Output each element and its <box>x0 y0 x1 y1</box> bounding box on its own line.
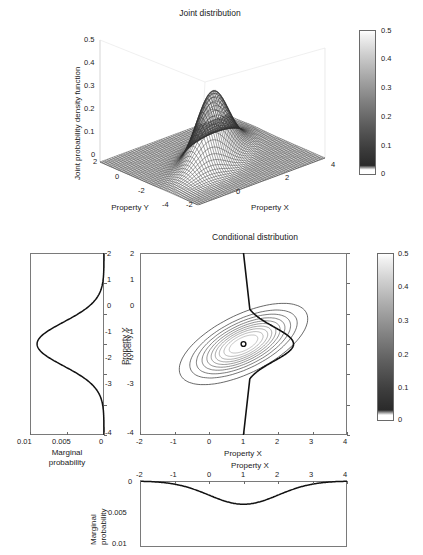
conditional-ytick-0: 2 <box>130 249 134 258</box>
marginal-x-xaxis-label: Property X <box>215 461 285 470</box>
marginal-x-xtick-1: -1 <box>170 470 177 479</box>
conditional-colorbar[interactable] <box>377 253 394 421</box>
conditional-cbtick-0: 0.5 <box>398 249 408 258</box>
joint-ztick-1: 0.4 <box>84 58 94 67</box>
marginal-y-curve <box>30 253 104 435</box>
joint-distribution-title: Joint distribution <box>145 8 275 18</box>
marginal-y-xtick-0: 0.01 <box>17 437 32 446</box>
marginal-y-ytick-4: -2 <box>105 353 112 362</box>
joint-ytick-1: 0 <box>115 172 119 181</box>
marginal-x-xtick-3: 1 <box>241 470 245 479</box>
marginal-y-ytick-2: 0 <box>107 301 111 310</box>
marginal-x-xtick-4: 2 <box>275 470 279 479</box>
marginal-y-ytick-1: 1 <box>107 275 111 284</box>
joint-cbtick-4: 0.1 <box>381 141 391 150</box>
conditional-xtick-0: -2 <box>136 437 143 446</box>
conditional-distribution-title: Conditional distribution <box>190 232 320 242</box>
marginal-y-xtick-2: 0 <box>99 437 103 446</box>
marginal-x-yaxis-label-line2: probability <box>99 509 108 545</box>
joint-xaxis-label: Property X <box>235 203 305 212</box>
joint-colorbar[interactable] <box>359 30 376 175</box>
joint-yaxis-label: Property Y <box>95 203 165 212</box>
conditional-ytick-1: 1 <box>130 275 134 284</box>
marginal-x-ytick-2: 0.01 <box>112 539 127 548</box>
marginal-y-ytick-3: -1 <box>105 327 112 336</box>
joint-cbtick-0: 0.5 <box>381 26 391 35</box>
conditional-ytick-5: -3 <box>127 379 134 388</box>
conditional-cbtick-5: 0 <box>398 415 402 424</box>
marginal-x-yaxis-label-line1: Marginal <box>89 514 98 545</box>
marginal-x-ytick-0: 0 <box>128 477 132 486</box>
joint-xtick-2: 2 <box>285 173 289 182</box>
marginal-x-xtick-6: 4 <box>343 470 347 479</box>
joint-cbtick-3: 0.2 <box>381 112 391 121</box>
conditional-cbtick-4: 0.1 <box>398 383 408 392</box>
marginal-x-ytick-1: 0.005 <box>108 508 127 517</box>
conditional-xtick-4: 2 <box>275 437 279 446</box>
conditional-xtick-5: 3 <box>309 437 313 446</box>
marginal-y-xaxis-label-line1: Marginal <box>32 448 102 457</box>
marginal-x-curve <box>140 481 347 547</box>
joint-xtick-1: 0 <box>236 187 240 196</box>
joint-ztick-0: 0.5 <box>84 35 94 44</box>
conditional-cbtick-3: 0.2 <box>398 350 408 359</box>
marginal-y-xtick-1: 0.005 <box>52 437 71 446</box>
conditional-cbtick-2: 0.3 <box>398 316 408 325</box>
conditional-xtick-6: 4 <box>343 437 347 446</box>
joint-surface-plot <box>95 40 330 205</box>
joint-ytick-0: 2 <box>93 157 97 166</box>
marginal-x-xtick-2: 0 <box>207 470 211 479</box>
marginal-y-xaxis-label-line2: probability <box>32 458 102 467</box>
joint-cbtick-5: 0 <box>381 169 385 178</box>
conditional-ytick-2: 0 <box>130 301 134 310</box>
joint-cbtick-1: 0.4 <box>381 54 391 63</box>
conditional-xaxis-label: Property X <box>208 449 278 458</box>
conditional-ytick-6: -4 <box>127 428 134 437</box>
joint-cbtick-2: 0.3 <box>381 83 391 92</box>
distribution-center-marker <box>241 342 246 347</box>
joint-ztick-2: 0.3 <box>84 81 94 90</box>
joint-ytick-2: -2 <box>138 186 145 195</box>
conditional-cbtick-1: 0.4 <box>398 282 408 291</box>
conditional-contour-plot <box>140 253 347 435</box>
joint-xtick-3: 4 <box>331 160 335 169</box>
joint-zaxis-label: Joint probability density function <box>73 67 82 180</box>
marginal-y-ytick-0: 2 <box>107 249 111 258</box>
marginal-y-ytick-5: -3 <box>105 379 112 388</box>
conditional-xtick-2: 0 <box>207 437 211 446</box>
joint-ztick-3: 0.2 <box>84 104 94 113</box>
joint-ztick-4: 0.1 <box>84 127 94 136</box>
conditional-xtick-1: -1 <box>170 437 177 446</box>
conditional-xtick-3: 1 <box>241 437 245 446</box>
marginal-x-xtick-0: -2 <box>136 470 143 479</box>
marginal-x-xtick-5: 3 <box>309 470 313 479</box>
conditional-yaxis-label: Property Y <box>120 327 129 365</box>
joint-xtick-0: -2 <box>186 200 193 209</box>
